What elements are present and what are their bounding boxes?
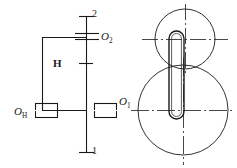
gear-2-pitch-circle	[155, 9, 215, 69]
schematic-drawing	[0, 0, 237, 168]
carrier-arm-label: H	[53, 58, 62, 69]
gear-2-shaft-label: 2	[92, 9, 97, 19]
gear-1-shaft-label: 1	[92, 146, 97, 156]
center-O2-label: O2	[101, 31, 113, 45]
figure-canvas: O2 O1 OH H 2 1	[0, 0, 237, 168]
center-O1-label: O1	[119, 96, 131, 110]
gear-1-pitch-circle	[138, 65, 228, 155]
carrier-link-inner-outline	[172, 34, 182, 117]
center-OH-label: OH	[14, 106, 27, 120]
